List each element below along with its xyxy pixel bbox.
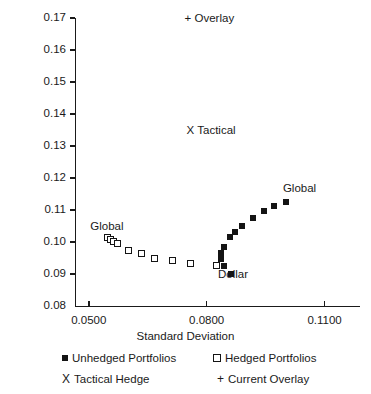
y-axis-line xyxy=(75,18,76,307)
legend-item-current-overlay: + Current Overlay xyxy=(217,371,309,387)
data-point-hedged xyxy=(114,240,121,247)
data-point-unhedged xyxy=(218,250,224,256)
data-point-hedged xyxy=(187,260,194,267)
overlay-annotation: + Overlay xyxy=(185,12,235,24)
global-right-annotation: Global xyxy=(283,182,316,194)
x-axis-title: Standard Deviation xyxy=(0,330,371,342)
data-point-hedged xyxy=(151,255,158,262)
data-point-hedged xyxy=(125,247,132,254)
legend-item-tactical-hedge: X Tactical Hedge xyxy=(62,371,149,387)
legend-item-hedged-portfolios: Hedged Portfolios xyxy=(213,350,316,366)
data-point-unhedged xyxy=(227,234,233,240)
data-point-hedged xyxy=(138,250,145,257)
legend-item-unhedged-portfolios: Unhedged Portfolios xyxy=(62,350,176,366)
data-point-unhedged xyxy=(221,244,227,250)
plus-marker-icon: + xyxy=(217,373,224,385)
x-marker-icon: X xyxy=(62,373,70,385)
data-point-unhedged xyxy=(271,203,277,209)
y-tick-label: 0.11 xyxy=(26,204,66,215)
tactical-annotation: X Tactical xyxy=(187,124,236,136)
x-tick-label: 0.1100 xyxy=(290,314,360,326)
y-tick-label: 0.09 xyxy=(26,268,66,279)
x-axis-line xyxy=(75,306,360,307)
dollar-annotation: Dollar xyxy=(218,268,248,280)
x-tick-label: 0.0500 xyxy=(54,314,124,326)
y-tick-label: 0.12 xyxy=(26,172,66,183)
data-point-hedged xyxy=(169,257,176,264)
scatter-chart-figure: Average Return (Percent per Annum) 0.080… xyxy=(0,0,371,394)
data-point-unhedged xyxy=(250,215,256,221)
legend-row-1: Unhedged Portfolios Hedged Portfolios xyxy=(0,350,371,366)
data-point-unhedged xyxy=(232,229,238,235)
x-tick-label: 0.0800 xyxy=(172,314,242,326)
legend-row-2: X Tactical Hedge + Current Overlay xyxy=(0,371,371,387)
legend-label-tactical-hedge: Tactical Hedge xyxy=(74,371,149,387)
y-tick-label: 0.13 xyxy=(26,140,66,151)
y-tick-label: 0.15 xyxy=(26,76,66,87)
y-tick-label: 0.17 xyxy=(26,12,66,23)
open-square-icon xyxy=(213,354,221,362)
global-left-annotation: Global xyxy=(90,220,123,232)
legend-label-current-overlay: Current Overlay xyxy=(228,371,309,387)
filled-square-icon xyxy=(62,355,68,361)
y-tick-label: 0.16 xyxy=(26,44,66,55)
legend-label-unhedged-portfolios: Unhedged Portfolios xyxy=(72,350,176,366)
data-point-unhedged xyxy=(283,199,289,205)
y-tick-label: 0.08 xyxy=(26,300,66,311)
y-tick-label: 0.14 xyxy=(26,108,66,119)
y-tick-label: 0.10 xyxy=(26,236,66,247)
data-point-unhedged xyxy=(239,223,245,229)
data-point-unhedged xyxy=(261,208,267,214)
legend-label-hedged-portfolios: Hedged Portfolios xyxy=(225,350,316,366)
